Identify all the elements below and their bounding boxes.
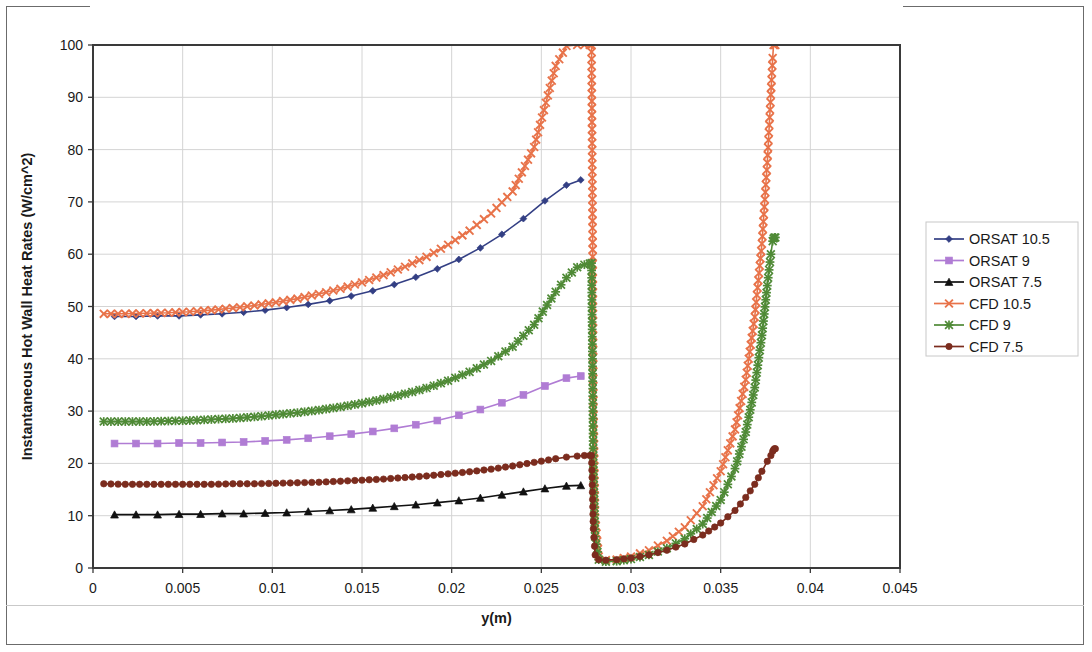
data-point-marker [590, 518, 596, 524]
chart-page: 010203040506070809010000.0050.010.0150.0… [0, 0, 1092, 652]
data-point-marker [735, 450, 744, 459]
data-point-marker [754, 353, 763, 362]
data-point-marker [756, 338, 765, 347]
data-point-marker [706, 488, 714, 496]
data-point-marker [547, 294, 556, 303]
data-point-marker [337, 478, 343, 484]
data-point-marker [459, 231, 467, 239]
data-point-marker [223, 481, 229, 487]
data-point-marker [725, 514, 731, 520]
y-tick-label: 20 [67, 455, 83, 471]
data-point-marker [563, 375, 570, 382]
data-point-marker [438, 471, 444, 477]
data-point-marker [766, 258, 775, 267]
data-point-marker [589, 474, 595, 480]
y-tick-label: 80 [67, 142, 83, 158]
data-point-marker [739, 435, 748, 444]
data-point-marker [431, 472, 437, 478]
data-point-marker [122, 481, 128, 487]
legend-item-label: ORSAT 9 [969, 253, 1030, 269]
data-point-marker [372, 396, 381, 405]
data-point-marker [699, 502, 707, 510]
data-point-marker [111, 440, 118, 447]
data-point-marker [737, 501, 743, 507]
data-point-marker [322, 405, 331, 414]
data-point-marker [494, 352, 503, 361]
data-point-marker [380, 271, 388, 279]
data-point-marker [646, 552, 652, 558]
data-point-marker [682, 541, 688, 547]
data-point-marker [744, 413, 753, 422]
data-point-marker [194, 481, 200, 487]
data-point-marker [591, 543, 597, 549]
data-point-marker [219, 439, 226, 446]
data-point-marker [266, 480, 272, 486]
data-point-marker [628, 555, 634, 561]
data-point-marker [386, 393, 395, 402]
data-point-marker [717, 520, 723, 526]
data-point-marker [379, 395, 388, 404]
data-point-marker [722, 453, 730, 461]
data-point-marker [473, 221, 481, 229]
data-point-marker [409, 474, 415, 480]
data-point-marker [283, 436, 290, 443]
data-point-marker [707, 508, 716, 517]
data-point-marker [133, 440, 140, 447]
data-point-marker [300, 407, 309, 416]
data-point-marker [771, 233, 780, 242]
y-tick-label: 90 [67, 89, 83, 105]
data-point-marker [946, 257, 953, 264]
data-point-marker [280, 480, 286, 486]
data-point-marker [329, 404, 338, 413]
x-tick-label: 0.025 [524, 580, 559, 596]
data-point-marker [520, 391, 527, 398]
data-point-marker [759, 468, 765, 474]
data-point-marker [474, 468, 480, 474]
data-point-marker [451, 236, 459, 244]
data-point-marker [330, 478, 336, 484]
data-point-marker [727, 472, 736, 481]
data-point-marker [751, 376, 760, 385]
y-tick-label: 70 [67, 194, 83, 210]
data-point-marker [574, 453, 580, 459]
data-point-marker [495, 465, 501, 471]
data-point-marker [750, 383, 759, 392]
data-point-marker [343, 401, 352, 410]
data-point-marker [434, 417, 441, 424]
data-point-marker [459, 469, 465, 475]
data-point-marker [480, 215, 488, 223]
legend-item-label: CFD 9 [969, 317, 1011, 333]
data-point-marker [350, 400, 359, 409]
data-point-marker [373, 476, 379, 482]
data-point-marker [755, 475, 761, 481]
y-axis-ticks: 0102030405060708090100 [60, 37, 93, 576]
data-point-marker [437, 245, 445, 253]
data-point-marker [538, 307, 547, 316]
data-point-marker [369, 428, 376, 435]
data-point-marker [498, 399, 505, 406]
data-point-marker [348, 431, 355, 438]
data-point-marker [466, 469, 472, 475]
data-point-marker [387, 475, 393, 481]
data-point-marker [179, 481, 185, 487]
data-point-marker [691, 536, 697, 542]
data-point-marker [713, 474, 721, 482]
data-point-marker [455, 412, 462, 419]
data-point-marker [752, 368, 761, 377]
data-point-marker [101, 481, 107, 487]
data-point-marker [466, 227, 474, 235]
data-point-marker [430, 249, 438, 257]
data-point-marker [301, 479, 307, 485]
data-point-marker [706, 528, 712, 534]
data-point-marker [415, 386, 424, 395]
data-point-marker [452, 470, 458, 476]
data-point-marker [393, 391, 402, 400]
legend-item-label: ORSAT 10.5 [969, 231, 1050, 247]
data-point-marker [621, 556, 627, 562]
data-point-marker [158, 481, 164, 487]
data-point-marker [402, 474, 408, 480]
data-point-marker [732, 507, 738, 513]
data-point-marker [726, 439, 734, 447]
data-point-marker [534, 314, 543, 323]
data-point-marker [487, 356, 496, 365]
